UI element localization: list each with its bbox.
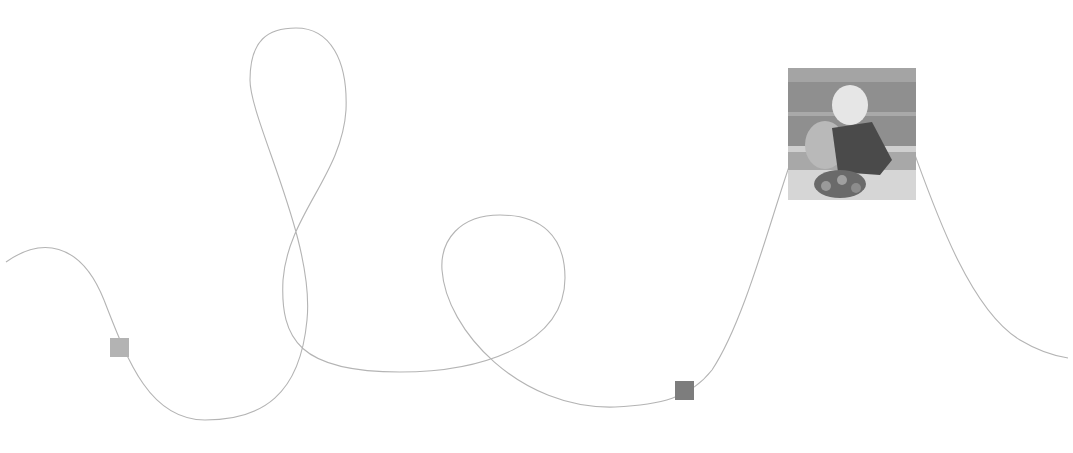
- photo-thumbnail[interactable]: [788, 68, 916, 200]
- marker-dark[interactable]: [675, 381, 694, 400]
- curve-path-tail: [915, 155, 1068, 358]
- curve-path: [6, 28, 792, 420]
- marker-light[interactable]: [110, 338, 129, 357]
- diagram-canvas: [0, 0, 1073, 453]
